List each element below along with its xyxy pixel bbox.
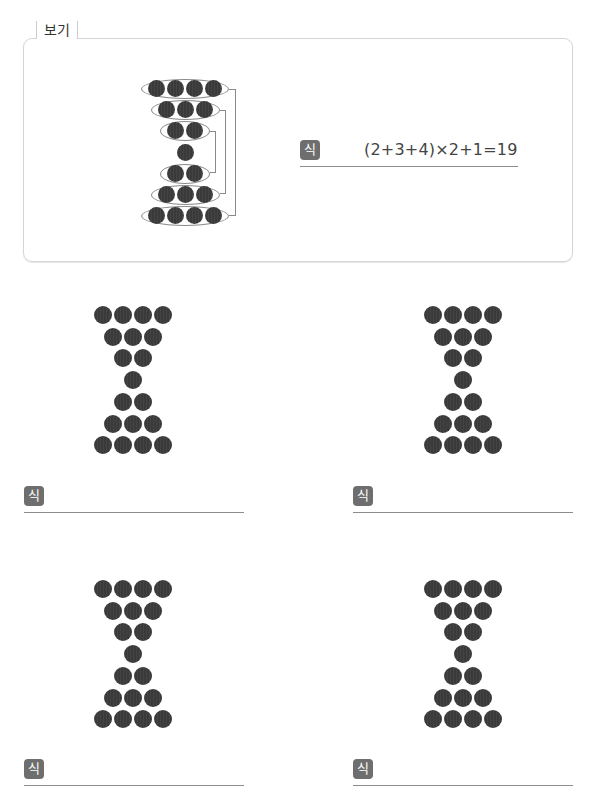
pair-bracket	[210, 131, 216, 173]
dot	[464, 306, 482, 324]
example-dot-figure	[140, 78, 250, 226]
dot	[444, 306, 462, 324]
dot	[114, 580, 132, 598]
dot	[454, 415, 472, 433]
dot	[124, 645, 142, 663]
dot	[154, 580, 172, 598]
dot	[114, 436, 132, 454]
problem-1-answer-row[interactable]: 식	[24, 486, 244, 514]
dot	[424, 710, 442, 728]
dot	[134, 393, 152, 411]
dot	[134, 580, 152, 598]
dot	[464, 580, 482, 598]
dot	[196, 101, 213, 118]
dot	[154, 710, 172, 728]
dot	[144, 602, 162, 620]
dot	[114, 349, 132, 367]
dot	[148, 80, 165, 97]
dot	[474, 689, 492, 707]
dot	[154, 306, 172, 324]
example-label: 보기	[36, 21, 78, 39]
dot	[484, 580, 502, 598]
dot	[158, 186, 175, 203]
dot	[114, 623, 132, 641]
dot	[104, 602, 122, 620]
answer-line	[353, 785, 573, 786]
dot	[464, 349, 482, 367]
dot	[464, 667, 482, 685]
dot	[104, 328, 122, 346]
dot	[124, 328, 142, 346]
dot	[454, 602, 472, 620]
sik-badge: 식	[300, 140, 320, 160]
dot	[154, 436, 172, 454]
pair-bracket	[220, 110, 227, 195]
dot	[454, 328, 472, 346]
dot	[454, 689, 472, 707]
dot	[474, 328, 492, 346]
dot	[484, 436, 502, 454]
dot	[134, 349, 152, 367]
sik-badge: 식	[24, 486, 44, 506]
dot	[434, 602, 452, 620]
dot	[124, 602, 142, 620]
answer-line	[300, 166, 518, 167]
dot	[104, 415, 122, 433]
dot	[124, 415, 142, 433]
dot	[134, 710, 152, 728]
example-formula: (2+3+4)×2+1=19	[364, 140, 518, 159]
answer-line	[24, 512, 244, 513]
dot	[144, 415, 162, 433]
sik-badge: 식	[353, 759, 373, 779]
dot	[94, 436, 112, 454]
problem-4-answer-row[interactable]: 식	[353, 759, 573, 787]
dot	[158, 101, 175, 118]
sik-badge: 식	[24, 759, 44, 779]
dot	[474, 415, 492, 433]
dot	[444, 580, 462, 598]
answer-line	[24, 785, 244, 786]
sik-badge: 식	[353, 486, 373, 506]
dot	[464, 710, 482, 728]
dot	[186, 80, 203, 97]
dot	[205, 80, 222, 97]
dot	[444, 710, 462, 728]
dot	[454, 371, 472, 389]
dot	[134, 623, 152, 641]
dot	[434, 415, 452, 433]
dot	[134, 306, 152, 324]
dot	[464, 393, 482, 411]
dot	[167, 165, 184, 182]
dot	[454, 645, 472, 663]
dot	[186, 165, 203, 182]
dot	[444, 436, 462, 454]
dot	[444, 623, 462, 641]
dot	[177, 101, 194, 118]
dot	[424, 436, 442, 454]
dot	[464, 623, 482, 641]
answer-line	[353, 512, 573, 513]
dot	[124, 371, 142, 389]
dot	[134, 667, 152, 685]
problem-3-answer-row[interactable]: 식	[24, 759, 244, 787]
dot	[114, 306, 132, 324]
dot	[94, 580, 112, 598]
dot	[94, 710, 112, 728]
dot	[444, 393, 462, 411]
dot	[484, 710, 502, 728]
pair-bracket	[229, 89, 236, 216]
dot	[484, 306, 502, 324]
problem-2-answer-row[interactable]: 식	[353, 486, 573, 514]
dot	[434, 689, 452, 707]
example-answer-row: 식 (2+3+4)×2+1=19	[300, 140, 518, 168]
dot	[444, 349, 462, 367]
dot	[177, 186, 194, 203]
dot	[134, 436, 152, 454]
dot	[424, 580, 442, 598]
dot	[144, 328, 162, 346]
dot	[124, 689, 142, 707]
dot	[114, 667, 132, 685]
dot	[434, 328, 452, 346]
dot	[196, 186, 213, 203]
dot	[144, 689, 162, 707]
